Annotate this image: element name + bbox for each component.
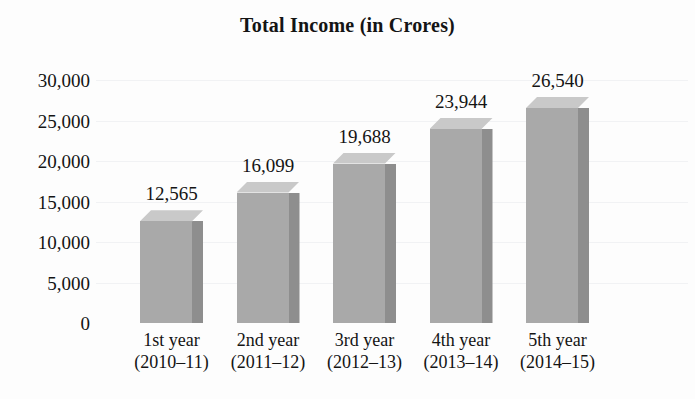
bar[interactable] — [237, 182, 300, 323]
category-name: 5th year — [503, 329, 612, 351]
bar-side-face — [192, 221, 203, 323]
bar-side-face — [289, 193, 300, 323]
bar-front-face — [140, 221, 192, 323]
x-axis-category-label: 5th year(2014–15) — [503, 329, 612, 373]
x-axis-category-label: 2nd year(2011–12) — [214, 329, 323, 373]
bar[interactable] — [430, 118, 493, 323]
bar-top-face — [430, 118, 493, 129]
category-year-range: (2013–14) — [407, 351, 516, 373]
bar-top-face — [526, 97, 589, 108]
category-year-range: (2012–13) — [310, 351, 419, 373]
bar[interactable] — [140, 210, 203, 323]
bar-front-face — [430, 129, 482, 323]
bar-side-face — [482, 129, 493, 323]
bar-value-label: 26,540 — [508, 71, 607, 90]
category-year-range: (2014–15) — [503, 351, 612, 373]
bar-side-face — [385, 164, 396, 323]
bar-top-face — [140, 210, 203, 221]
bar[interactable] — [333, 153, 396, 323]
bar-front-face — [237, 193, 289, 323]
bar-value-label: 23,944 — [412, 92, 511, 111]
bar-front-face — [333, 164, 385, 323]
x-axis-category-label: 1st year(2010–11) — [117, 329, 226, 373]
category-name: 2nd year — [214, 329, 323, 351]
category-name: 1st year — [117, 329, 226, 351]
x-axis-category-label: 3rd year(2012–13) — [310, 329, 419, 373]
bar-front-face — [526, 108, 578, 323]
plot-area: 05,00010,00015,00020,00025,00030,000 12,… — [0, 0, 695, 399]
chart-container: Total Income (in Crores) 05,00010,00015,… — [0, 0, 695, 399]
category-name: 3rd year — [310, 329, 419, 351]
bar-value-label: 12,565 — [122, 184, 221, 203]
bar-value-label: 16,099 — [219, 156, 318, 175]
category-year-range: (2010–11) — [117, 351, 226, 373]
bar-side-face — [578, 108, 589, 323]
category-name: 4th year — [407, 329, 516, 351]
x-axis-category-label: 4th year(2013–14) — [407, 329, 516, 373]
bar[interactable] — [526, 97, 589, 323]
bar-value-label: 19,688 — [315, 127, 414, 146]
category-year-range: (2011–12) — [214, 351, 323, 373]
bar-top-face — [333, 153, 396, 164]
bar-top-face — [237, 182, 300, 193]
